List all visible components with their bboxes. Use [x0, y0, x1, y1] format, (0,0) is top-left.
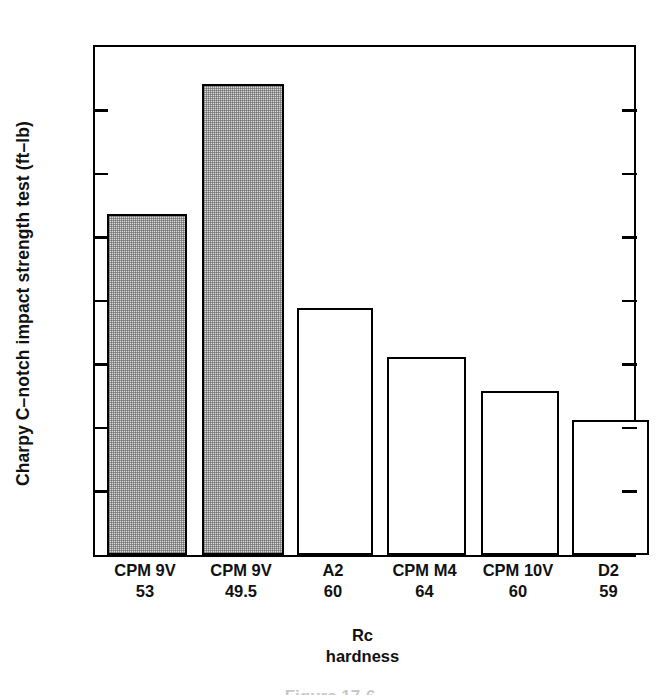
x-axis-title-line1: Rc — [352, 626, 373, 644]
y-tick-mark-left — [93, 236, 108, 239]
chart-figure: Charpy C–notch impact strength test (ft–… — [0, 0, 660, 695]
bar — [202, 84, 284, 555]
bar — [297, 308, 373, 555]
y-tick-mark-right — [622, 490, 637, 493]
y-tick-mark-right — [622, 173, 637, 176]
bar — [387, 357, 466, 555]
y-tick-mark-left — [93, 363, 108, 366]
x-category-hardness: 59 — [534, 581, 660, 602]
x-axis-title-line2: hardness — [93, 646, 632, 667]
y-tick-mark-left — [93, 109, 108, 112]
y-tick-mark-left — [93, 173, 108, 176]
y-tick-mark-right — [622, 427, 637, 430]
bar — [481, 391, 559, 555]
y-tick-mark-left — [93, 490, 108, 493]
y-tick-mark-right — [622, 300, 637, 303]
bar — [572, 420, 649, 555]
y-axis-title: Charpy C–notch impact strength test (ft–… — [13, 44, 34, 564]
x-category-material: D2 — [598, 561, 619, 579]
x-category-material: A2 — [322, 561, 343, 579]
bar — [107, 214, 187, 555]
y-tick-mark-right — [622, 236, 637, 239]
x-category-label: D259 — [534, 560, 660, 602]
x-axis-title: Rc hardness — [93, 625, 632, 667]
y-tick-mark-left — [93, 427, 108, 430]
figure-caption: Figure 17-6 — [0, 687, 660, 695]
y-tick-mark-right — [622, 109, 637, 112]
bar-series — [95, 47, 634, 555]
y-tick-mark-right — [622, 363, 637, 366]
plot-area: 01020304050607080 — [93, 45, 636, 557]
y-tick-mark-left — [93, 300, 108, 303]
